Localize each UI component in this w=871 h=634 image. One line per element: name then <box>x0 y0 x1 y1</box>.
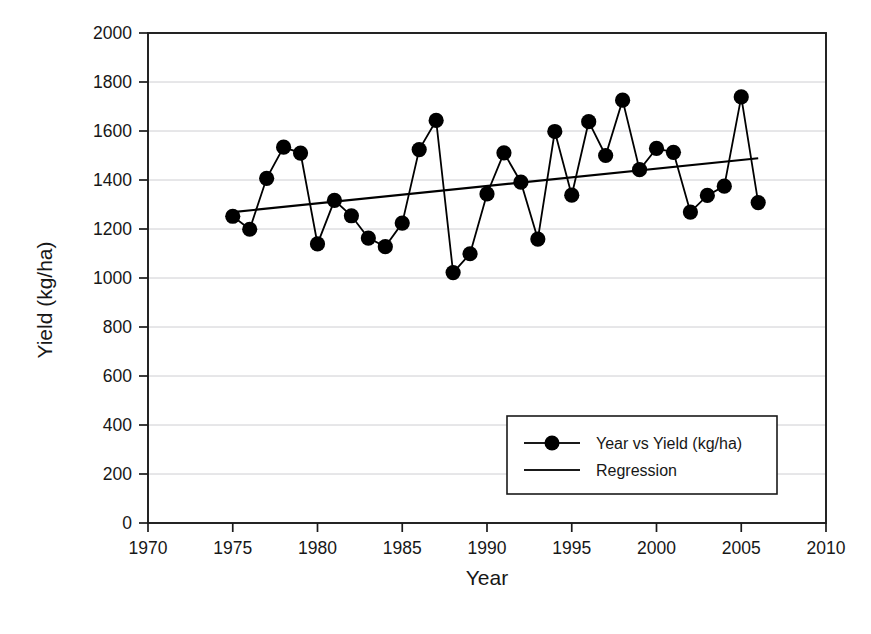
y-tick-label: 1000 <box>93 268 132 288</box>
y-tick-label: 1200 <box>93 219 132 239</box>
data-point-marker <box>479 186 494 201</box>
data-point-marker <box>632 162 647 177</box>
x-axis-tick-labels: 197019751980198519901995200020052010 <box>129 538 846 558</box>
data-point-marker <box>242 222 257 237</box>
data-point-marker <box>734 89 749 104</box>
data-point-marker <box>666 145 681 160</box>
legend-series-circle-icon <box>545 436 560 451</box>
legend-label-series: Year vs Yield (kg/ha) <box>596 435 742 452</box>
data-point-marker <box>395 216 410 231</box>
data-point-marker <box>259 171 274 186</box>
data-point-marker <box>310 236 325 251</box>
y-tick-label: 1600 <box>93 121 132 141</box>
legend-label-regression: Regression <box>596 462 677 479</box>
x-tick-label: 1985 <box>383 538 422 558</box>
data-point-marker <box>649 141 664 156</box>
x-axis-label: Year <box>466 566 508 589</box>
data-point-marker <box>496 145 511 160</box>
data-point-marker <box>276 140 291 155</box>
data-point-marker <box>378 239 393 254</box>
data-point-marker <box>462 246 477 261</box>
x-tick-label: 1995 <box>552 538 591 558</box>
data-point-marker <box>361 230 376 245</box>
year-vs-yield-chart: 0200400600800100012001400160018002000 19… <box>0 0 871 634</box>
y-tick-label: 1400 <box>93 170 132 190</box>
x-tick-label: 1990 <box>468 538 507 558</box>
data-point-marker <box>513 175 528 190</box>
legend-border <box>507 416 777 494</box>
figure-container: 0200400600800100012001400160018002000 19… <box>0 0 871 634</box>
y-tick-label: 0 <box>122 513 132 533</box>
data-point-marker <box>327 193 342 208</box>
x-tick-label: 2010 <box>807 538 846 558</box>
data-point-marker <box>581 114 596 129</box>
data-point-marker <box>683 205 698 220</box>
data-point-marker <box>293 145 308 160</box>
y-tick-label: 400 <box>103 415 132 435</box>
x-tick-label: 2005 <box>722 538 761 558</box>
x-tick-label: 1970 <box>129 538 168 558</box>
data-point-marker <box>547 124 562 139</box>
data-point-marker <box>344 208 359 223</box>
data-point-marker <box>564 188 579 203</box>
x-tick-label: 1975 <box>213 538 252 558</box>
y-tick-label: 800 <box>103 317 132 337</box>
y-tick-label: 200 <box>103 464 132 484</box>
x-tick-label: 2000 <box>637 538 676 558</box>
legend[interactable]: Year vs Yield (kg/ha) Regression <box>507 416 777 494</box>
data-point-marker <box>225 209 240 224</box>
data-point-marker <box>615 93 630 108</box>
y-tick-label: 2000 <box>93 23 132 43</box>
y-tick-label: 600 <box>103 366 132 386</box>
data-point-marker <box>412 142 427 157</box>
data-point-marker <box>530 231 545 246</box>
y-tick-label: 1800 <box>93 72 132 92</box>
data-point-marker <box>446 265 461 280</box>
x-tick-label: 1980 <box>298 538 337 558</box>
data-point-marker <box>598 148 613 163</box>
data-point-marker <box>700 188 715 203</box>
y-axis-label: Yield (kg/ha) <box>33 241 56 358</box>
data-point-marker <box>717 179 732 194</box>
data-point-marker <box>751 195 766 210</box>
data-point-marker <box>429 113 444 128</box>
